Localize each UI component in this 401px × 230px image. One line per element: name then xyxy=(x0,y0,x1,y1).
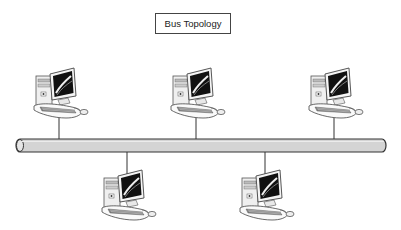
computer-icon xyxy=(102,170,156,220)
computer-icon xyxy=(309,68,363,118)
computer-icon xyxy=(171,68,225,118)
computer-icon xyxy=(240,170,294,220)
computer-icon xyxy=(34,68,88,118)
bus-backbone xyxy=(16,139,386,152)
